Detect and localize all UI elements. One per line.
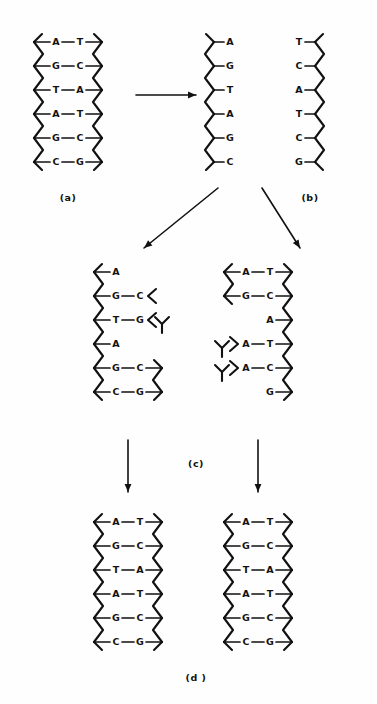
panel-b-left-base-5: C (227, 156, 234, 167)
panel-c-left-left-backbone-seg-4 (94, 368, 103, 392)
panel-b-right-backbone-seg-4 (315, 138, 324, 162)
panel-b-left-base-1: G (226, 60, 234, 71)
panel-a-right-backbone-seg-0 (93, 42, 102, 66)
panel-b-right-backbone-seg-5 (315, 34, 323, 42)
panel-d-right-right-backbone-seg-2 (283, 570, 292, 594)
panel-d-left-right-backbone-seg-3 (153, 594, 162, 618)
panel-d-right-base-left-2: T (243, 564, 250, 575)
panel-b-right-backbone-seg-6 (315, 162, 323, 170)
panel-d-right-right-backbone-seg-0 (283, 522, 292, 546)
panel-c-left-left-backbone-seg-0 (94, 272, 103, 296)
panel-c-left-right-backbone-seg-2 (154, 392, 162, 400)
panel-c-left-left-backbone-seg-5 (94, 264, 102, 272)
panel-c-left-base-left-4: G (112, 362, 120, 373)
panel-a-right-backbone-seg-1 (93, 66, 102, 90)
panel-a-right-backbone-seg-5 (94, 34, 102, 42)
panel-c-right-right-backbone-seg-6 (284, 392, 292, 400)
panel-c-right-right-backbone-seg-0 (283, 272, 292, 296)
arrow-b-right-to-c-right (262, 188, 300, 248)
panel-a-base-right-3: T (77, 108, 84, 119)
panel-d-left-base-right-3: T (137, 588, 144, 599)
panel-b-right-base-5: G (295, 156, 303, 167)
panel-b-left-backbone-seg-6 (206, 162, 214, 170)
panel-d-left-right-backbone-seg-2 (153, 570, 162, 594)
panel-label-b: (b) (302, 192, 319, 203)
panel-c-left-left-backbone-seg-6 (94, 392, 102, 400)
panel-d-right-right-backbone-seg-6 (284, 642, 292, 650)
panel-c-right-left-backbone-seg-2 (224, 296, 232, 304)
panel-d-right-left-backbone-seg-3 (224, 594, 233, 618)
panel-c-left-base-right-4: C (137, 362, 144, 373)
panel-c-right-base-right-5: G (266, 386, 274, 397)
panel-c-left-base-left-0: A (112, 266, 120, 277)
panel-a-left-backbone-seg-6 (34, 162, 42, 170)
panel-b-right-backbone-seg-1 (315, 66, 324, 90)
panel-d-right-base-left-1: G (242, 540, 250, 551)
panel-b-left-backbone-seg-1 (205, 66, 214, 90)
panel-label-c: (c) (188, 458, 204, 469)
panel-a-base-left-3: A (52, 108, 60, 119)
panel-d-left-base-left-1: G (112, 540, 120, 551)
panel-c-right-base-left-0: A (242, 266, 250, 277)
panel-b-left-base-3: A (226, 108, 234, 119)
panel-d-right-base-right-0: T (267, 516, 274, 527)
panel-c-right-right-backbone-seg-5 (284, 264, 292, 272)
panel-c-left-loose-1 (148, 289, 156, 303)
panel-d-right-base-left-3: A (242, 588, 250, 599)
panel-d-left-left-backbone-seg-6 (94, 642, 102, 650)
panel-c-left-loose-2 (148, 313, 156, 327)
arrow-b-right-to-c-right-head (293, 239, 300, 248)
panel-c-left-free-fragment-2 (155, 317, 169, 333)
arrow-c-right-to-d-right-head (255, 484, 262, 492)
panel-d-right-left-backbone-seg-0 (224, 522, 233, 546)
panel-b-right-base-4: C (296, 132, 303, 143)
panel-d-left-right-backbone-seg-1 (153, 546, 162, 570)
panel-b-right-backbone-seg-2 (315, 90, 324, 114)
panel-a-base-right-2: A (76, 84, 84, 95)
panel-d-right-right-backbone-seg-1 (283, 546, 292, 570)
panel-c-right-base-right-3: T (267, 338, 274, 349)
panel-d-left-base-left-4: G (112, 612, 120, 623)
panel-a-base-right-1: C (77, 60, 84, 71)
panel-a-left-backbone-seg-1 (34, 66, 43, 90)
panel-c-right-free-fragment-4 (215, 365, 229, 381)
dna-diagram: ATGCTAATGCCGAGTAGCTCATCGAGCTGAGCCGATGCAA… (0, 0, 377, 704)
panel-a-left-backbone-seg-0 (34, 42, 43, 66)
panel-d-right-left-backbone-seg-4 (224, 618, 233, 642)
panel-d-right-left-backbone-seg-1 (224, 546, 233, 570)
panel-d-right-base-right-4: C (267, 612, 274, 623)
panel-c-right-left-backbone-seg-0 (224, 272, 233, 296)
panel-c-left-base-right-2: G (136, 314, 144, 325)
panel-a-left-backbone-seg-5 (34, 34, 42, 42)
panel-a-base-left-2: T (53, 84, 60, 95)
panel-b-right-backbone-seg-3 (315, 114, 324, 138)
panel-d-left-base-right-1: C (137, 540, 144, 551)
panel-b-left-base-4: G (226, 132, 234, 143)
panel-d-left-right-backbone-seg-6 (154, 642, 162, 650)
panel-d-right-base-right-2: A (266, 564, 274, 575)
panel-d-right-left-backbone-seg-2 (224, 570, 233, 594)
panel-d-left-left-backbone-seg-1 (94, 546, 103, 570)
panel-c-right-base-right-0: T (267, 266, 274, 277)
arrow-c-left-to-d-left-head (125, 484, 132, 492)
panel-c-left-base-left-3: A (112, 338, 120, 349)
panel-a-left-backbone-seg-3 (34, 114, 43, 138)
panel-d-left-base-left-2: T (113, 564, 120, 575)
panel-b-right-base-3: T (296, 108, 303, 119)
panel-d-right-base-left-5: C (243, 636, 250, 647)
panel-label-a: (a) (60, 192, 77, 203)
panel-c-left-base-left-1: G (112, 290, 120, 301)
panel-d-left-base-left-5: C (113, 636, 120, 647)
panel-d-right-base-left-0: A (242, 516, 250, 527)
arrow-a-to-b-head (188, 92, 196, 99)
panel-d-left-base-right-4: C (137, 612, 144, 623)
arrow-b-left-to-c-left (144, 188, 218, 248)
panel-b-left-backbone-seg-4 (205, 138, 214, 162)
panel-a-base-right-5: G (76, 156, 84, 167)
panel-c-right-right-backbone-seg-2 (283, 320, 292, 344)
figure-canvas: ATGCTAATGCCGAGTAGCTCATCGAGCTGAGCCGATGCAA… (0, 0, 377, 704)
panel-label-d: (d ) (186, 672, 207, 683)
panel-c-right-loose-4 (230, 361, 238, 375)
panel-a-right-backbone-seg-4 (93, 138, 102, 162)
diagram-geometry (34, 34, 324, 650)
